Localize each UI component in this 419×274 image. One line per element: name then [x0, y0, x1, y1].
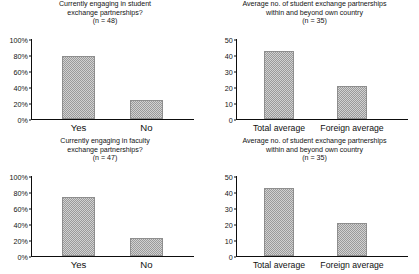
y-tick-mark — [234, 56, 236, 57]
x-axis-label: Yes — [71, 260, 87, 270]
x-axis-label: Yes — [71, 123, 87, 133]
chart-title-line-1: Currently engaging in faculty — [4, 137, 206, 146]
chart-title: Currently engaging in student exchange p… — [0, 0, 210, 26]
chart-title-line-2: exchange partnerships? — [4, 146, 206, 155]
chart-sample-size: (n = 48) — [4, 17, 206, 26]
y-tick-mark — [29, 56, 31, 57]
chart-grid: Currently engaging in student exchange p… — [0, 0, 419, 274]
y-tick-mark — [234, 193, 236, 194]
y-tick-mark — [234, 40, 236, 41]
x-axis-line — [236, 256, 408, 257]
y-tick-mark — [29, 103, 31, 104]
bar — [337, 86, 367, 118]
chart-panel-student-partnership-averages: Average no. of student exchange partners… — [210, 0, 419, 137]
chart-title: Average no. of student exchange partners… — [210, 0, 419, 26]
x-axis-label: No — [140, 123, 152, 133]
chart-title-line-1: Average no. of student exchange partners… — [214, 137, 415, 146]
bar — [62, 56, 95, 118]
bar — [337, 223, 367, 255]
y-tick-mark — [29, 256, 31, 257]
bar — [264, 188, 294, 256]
x-axis-line — [236, 119, 408, 120]
chart-title-line-1: Average no. of student exchange partners… — [214, 0, 415, 9]
chart-panel-faculty-engagement: Currently engaging in faculty exchange p… — [0, 137, 210, 274]
y-axis-line — [31, 176, 32, 257]
chart-panel-student-partnership-averages-2: Average no. of student exchange partners… — [210, 137, 419, 274]
y-tick-mark — [234, 88, 236, 89]
x-axis-label: Total average — [253, 260, 305, 270]
chart-title: Currently engaging in faculty exchange p… — [0, 137, 210, 163]
y-tick-mark — [29, 72, 31, 73]
y-tick-mark — [234, 209, 236, 210]
x-axis-label: Total average — [253, 123, 305, 133]
chart-title: Average no. of student exchange partners… — [210, 137, 419, 163]
y-tick-mark — [29, 40, 31, 41]
plot-area: 50 40 30 20 10 0 Total average Foreign a… — [236, 176, 408, 257]
chart-title-line-1: Currently engaging in student — [4, 0, 206, 9]
chart-sample-size: (n = 35) — [214, 154, 415, 163]
bar — [130, 100, 163, 119]
x-axis-label: Foreign average — [320, 123, 383, 133]
y-tick-mark — [234, 103, 236, 104]
plot-area: 100% 80% 60% 40% 20% 0% Yes No — [31, 39, 194, 120]
x-axis-line — [31, 256, 194, 257]
y-axis-line — [236, 176, 237, 257]
y-tick-mark — [234, 225, 236, 226]
y-tick-mark — [234, 177, 236, 178]
chart-title-line-2: within and beyond own country — [214, 146, 415, 155]
plot-area: 50 40 30 20 10 0 Total average Foreign a… — [236, 39, 408, 120]
y-tick-mark — [234, 240, 236, 241]
y-tick-mark — [29, 177, 31, 178]
x-axis-label: Foreign average — [320, 260, 383, 270]
chart-sample-size: (n = 35) — [214, 17, 415, 26]
bar — [264, 51, 294, 119]
y-tick-mark — [29, 88, 31, 89]
y-tick-mark — [29, 209, 31, 210]
y-tick-mark — [234, 256, 236, 257]
y-tick-mark — [234, 72, 236, 73]
y-axis-line — [236, 39, 237, 120]
y-axis-line — [31, 39, 32, 120]
x-axis-label: No — [140, 260, 152, 270]
y-tick-mark — [29, 119, 31, 120]
chart-title-line-2: exchange partnerships? — [4, 9, 206, 18]
y-tick-mark — [29, 193, 31, 194]
y-tick-mark — [29, 225, 31, 226]
chart-title-line-2: within and beyond own country — [214, 9, 415, 18]
bar — [62, 197, 95, 255]
plot-area: 100% 80% 60% 40% 20% 0% Yes No — [31, 176, 194, 257]
chart-panel-student-engagement: Currently engaging in student exchange p… — [0, 0, 210, 137]
x-axis-line — [31, 119, 194, 120]
y-tick-mark — [234, 119, 236, 120]
y-tick-mark — [29, 240, 31, 241]
chart-sample-size: (n = 47) — [4, 154, 206, 163]
bar — [130, 238, 163, 256]
